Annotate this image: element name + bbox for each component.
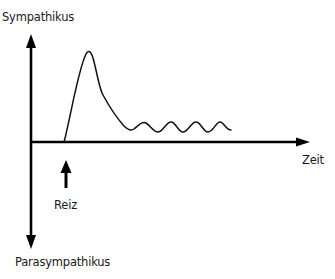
stimulus-arrow [61,160,72,188]
response-curve [64,51,231,142]
arrow-right-icon [296,138,310,147]
x-axis [31,138,310,147]
arrow-down-icon [26,235,36,249]
arrow-up-icon [26,34,36,48]
diagram-canvas [0,0,335,279]
y-axis-top-label: Sympathikus [2,10,74,24]
arrow-up-icon [61,160,72,173]
stimulus-label: Reiz [54,198,77,212]
y-axis-bottom-label: Parasympathikus [15,255,110,269]
x-axis-label: Zeit [302,153,324,167]
